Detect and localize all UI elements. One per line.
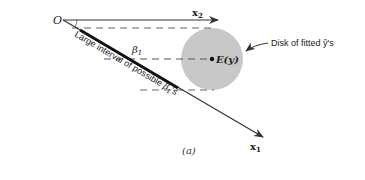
expected-y-label: E(y) xyxy=(215,54,239,65)
regression-geometry-diagram: O x2 x1 β1 E(y) Disk of fitted ŷ's Large… xyxy=(0,0,365,180)
expected-value-point xyxy=(210,57,214,61)
interval-label: Large interval of possible β̂1's xyxy=(72,29,179,98)
x2-label: x2 xyxy=(192,7,203,20)
angle-arc xyxy=(75,20,77,27)
disk-label: Disk of fitted ŷ's xyxy=(271,38,334,48)
origin-label: O xyxy=(53,14,62,27)
x1-label: x1 xyxy=(250,141,261,154)
disk-pointer-arrow xyxy=(246,43,268,51)
figure-caption: (a) xyxy=(182,145,196,156)
beta1-label: β1 xyxy=(131,44,142,57)
